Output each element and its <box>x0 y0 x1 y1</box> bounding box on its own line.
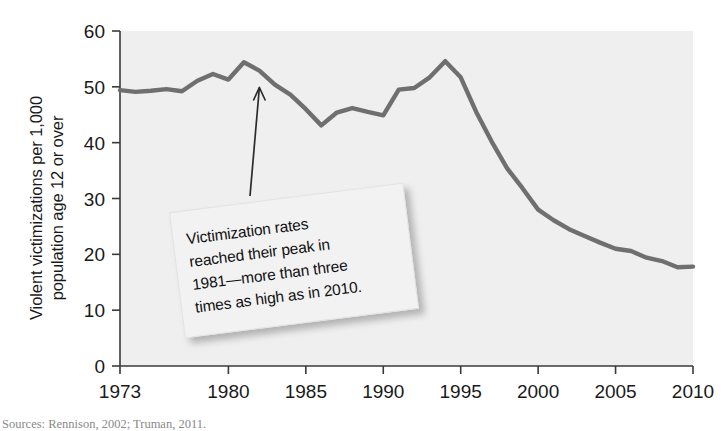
source-note: Sources: Rennison, 2002; Truman, 2011. <box>2 418 206 431</box>
x-axis-tick-label: 1995 <box>421 382 501 401</box>
y-axis-tick-label: 60 <box>65 22 105 41</box>
y-axis-tick-label: 0 <box>65 357 105 376</box>
chart-figure: Violent victimizations per 1,000 populat… <box>0 0 728 431</box>
x-axis-tick-label: 2000 <box>498 382 578 401</box>
x-axis-tick-label: 1980 <box>188 382 268 401</box>
y-axis-tick-label: 50 <box>65 78 105 97</box>
y-axis-tick-labels: 0102030405060 <box>57 0 105 431</box>
y-axis-tick-label: 20 <box>65 245 105 264</box>
x-axis-ticks <box>120 366 693 374</box>
y-axis-ticks <box>112 31 120 366</box>
x-axis-tick-label: 1985 <box>266 382 346 401</box>
y-axis-tick-label: 40 <box>65 134 105 153</box>
peak-callout-text: Victimization ratesreached their peak in… <box>185 201 409 319</box>
x-axis-tick-label: 1973 <box>80 382 160 401</box>
x-axis-tick-label: 2005 <box>576 382 656 401</box>
x-axis-tick-label: 1990 <box>343 382 423 401</box>
y-axis-tick-label: 30 <box>65 190 105 209</box>
y-axis-tick-label: 10 <box>65 301 105 320</box>
x-axis-tick-label: 2010 <box>653 382 728 401</box>
